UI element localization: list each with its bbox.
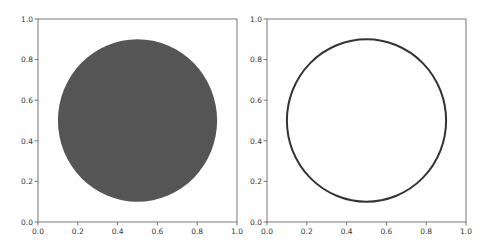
- y-tick-label: 0.0: [21, 218, 33, 227]
- x-tick-label: 0.0: [261, 227, 273, 236]
- x-tick-label: 0.6: [151, 227, 163, 236]
- x-tick-label: 1.0: [231, 227, 243, 236]
- x-tick-label: 0.8: [191, 227, 203, 236]
- axes-2: 0.00.20.40.60.81.00.00.20.40.60.81.0: [250, 15, 472, 236]
- y-tick-label: 0.4: [21, 137, 33, 146]
- x-tick-label: 0.8: [420, 227, 432, 236]
- x-tick-label: 0.4: [112, 227, 124, 236]
- figure: 0.00.20.40.60.81.00.00.20.40.60.81.00.00…: [0, 0, 492, 247]
- y-tick-label: 0.2: [250, 177, 262, 186]
- x-tick-label: 1.0: [460, 227, 472, 236]
- x-tick-label: 0.6: [380, 227, 392, 236]
- y-tick-label: 1.0: [250, 15, 262, 24]
- x-tick-label: 0.2: [72, 227, 84, 236]
- y-tick-label: 0.4: [250, 137, 262, 146]
- axes-frame: [267, 19, 466, 222]
- x-tick-label: 0.4: [341, 227, 353, 236]
- y-tick-label: 0.8: [250, 55, 262, 64]
- x-tick-label: 0.2: [301, 227, 313, 236]
- x-tick-label: 0.0: [32, 227, 44, 236]
- y-tick-label: 0.6: [250, 96, 262, 105]
- circle-outline: [287, 39, 446, 201]
- y-tick-label: 0.8: [21, 55, 33, 64]
- y-tick-label: 0.6: [21, 96, 33, 105]
- filled-circle: [58, 39, 217, 201]
- axes-1: 0.00.20.40.60.81.00.00.20.40.60.81.0: [21, 15, 243, 236]
- y-tick-label: 1.0: [21, 15, 33, 24]
- y-tick-label: 0.2: [21, 177, 33, 186]
- y-tick-label: 0.0: [250, 218, 262, 227]
